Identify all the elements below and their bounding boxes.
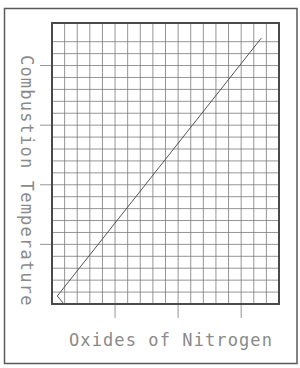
grid-lines	[52, 23, 279, 304]
y-axis-label: Combustion Temperature	[17, 55, 37, 307]
outer-frame	[5, 9, 298, 364]
data-line	[57, 38, 261, 304]
chart: Combustion Temperature Oxides of Nitroge…	[0, 0, 300, 368]
x-axis-label: Oxides of Nitrogen	[69, 330, 273, 350]
